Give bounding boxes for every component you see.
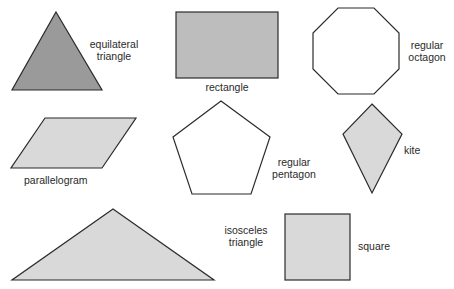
label-line: kite bbox=[404, 144, 420, 156]
label-line: square bbox=[358, 240, 390, 252]
label-line: triangle bbox=[218, 236, 274, 248]
equilateral-triangle-label: equilateral triangle bbox=[84, 38, 144, 62]
parallelogram-label: parallelogram bbox=[24, 174, 88, 186]
isosceles-triangle-label: isosceles triangle bbox=[218, 224, 274, 248]
label-line: regular bbox=[268, 156, 320, 168]
kite-label: kite bbox=[404, 144, 420, 156]
square-label: square bbox=[358, 240, 390, 252]
label-line: rectangle bbox=[197, 81, 257, 93]
regular-pentagon-shape bbox=[173, 101, 270, 194]
label-line: regular bbox=[402, 39, 452, 51]
rectangle-label: rectangle bbox=[197, 81, 257, 93]
kite-shape bbox=[343, 104, 402, 193]
label-line: pentagon bbox=[268, 168, 320, 180]
label-line: triangle bbox=[84, 50, 144, 62]
square-shape bbox=[285, 214, 350, 280]
label-line: octagon bbox=[402, 51, 452, 63]
label-line: parallelogram bbox=[24, 174, 88, 186]
parallelogram-shape bbox=[11, 118, 136, 168]
regular-pentagon-label: regular pentagon bbox=[268, 156, 320, 180]
label-line: isosceles bbox=[218, 224, 274, 236]
label-line: equilateral bbox=[84, 38, 144, 50]
shapes-diagram: equilateral triangle rectangle regular o… bbox=[0, 0, 454, 289]
rectangle-shape bbox=[176, 12, 278, 78]
regular-octagon-shape bbox=[313, 8, 399, 94]
isosceles-triangle-shape bbox=[12, 209, 214, 280]
regular-octagon-label: regular octagon bbox=[402, 39, 452, 63]
